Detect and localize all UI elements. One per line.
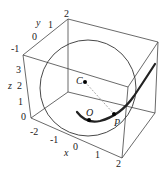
x-axis-label: x	[63, 147, 69, 158]
label-o: O	[86, 107, 93, 118]
label-c: C	[76, 75, 83, 86]
y-axis-label: y	[35, 17, 41, 28]
y-tick-0: 0	[32, 31, 37, 42]
z-tick-0: 0	[21, 111, 26, 122]
x-tick-neg1: -1	[50, 134, 58, 145]
x-tick-2: 2	[116, 158, 121, 169]
label-p: P	[113, 117, 120, 128]
x-tick-neg2: -2	[30, 126, 38, 137]
x-tick-0: 0	[73, 141, 78, 152]
z-tick-2: 2	[17, 80, 22, 91]
point-c	[83, 80, 87, 84]
point-p	[112, 112, 116, 116]
y-tick-2: 2	[64, 8, 69, 19]
z-tick-3: 3	[16, 64, 21, 75]
point-o	[87, 118, 91, 122]
x-tick-1: 1	[95, 149, 100, 160]
y-tick-1: 1	[48, 19, 53, 30]
z-tick-1: 1	[18, 96, 23, 107]
z-axis-label: z	[7, 80, 12, 91]
y-tick-neg1: -1	[11, 43, 19, 54]
3d-plot: C O P 2 1 0 -1 y 3 2 1 0 z -2 -1 0 1 2 x	[0, 0, 165, 184]
